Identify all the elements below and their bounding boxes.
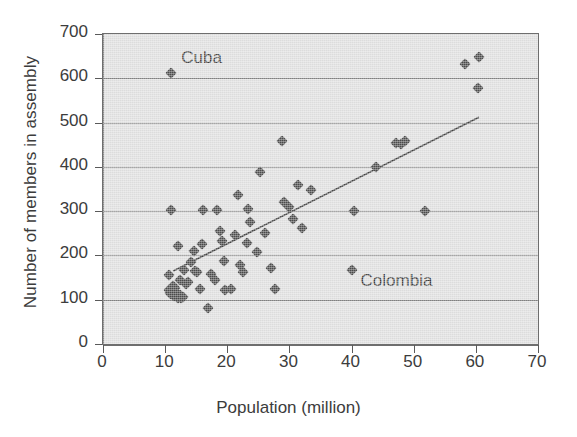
x-tick-label: 0: [82, 352, 122, 372]
y-tick-label: 200: [60, 243, 88, 263]
plot-area: CubaColombia: [102, 33, 539, 345]
y-axis-title: Number of members in assembly: [21, 17, 41, 347]
x-tick-label: 40: [331, 352, 371, 372]
x-tick-label: 30: [268, 352, 308, 372]
x-axis-title: Population (million): [0, 398, 577, 418]
x-tick-label: 50: [393, 352, 433, 372]
y-tick-label: 300: [60, 199, 88, 219]
y-tick-label: 400: [60, 155, 88, 175]
y-tick: [95, 34, 102, 35]
x-axis-line: [103, 344, 539, 346]
x-tick-label: 20: [206, 352, 246, 372]
x-tick-label: 60: [455, 352, 495, 372]
y-tick: [95, 78, 102, 79]
y-tick-label: 0: [79, 332, 88, 352]
y-tick: [95, 255, 102, 256]
y-tick-label: 500: [60, 111, 88, 131]
y-tick-label: 100: [60, 288, 88, 308]
y-tick-label: 600: [60, 66, 88, 86]
annotation-label: Colombia: [361, 271, 433, 291]
y-tick: [95, 344, 102, 345]
y-tick: [95, 300, 102, 301]
x-tick-label: 10: [144, 352, 184, 372]
scatter-chart-figure: Number of members in assembly CubaColomb…: [0, 0, 577, 437]
y-tick: [95, 123, 102, 124]
x-tick-label: 70: [517, 352, 557, 372]
y-tick: [95, 211, 102, 212]
y-tick-label: 700: [60, 22, 88, 42]
annotation-label: Cuba: [181, 48, 222, 68]
y-tick: [95, 167, 102, 168]
